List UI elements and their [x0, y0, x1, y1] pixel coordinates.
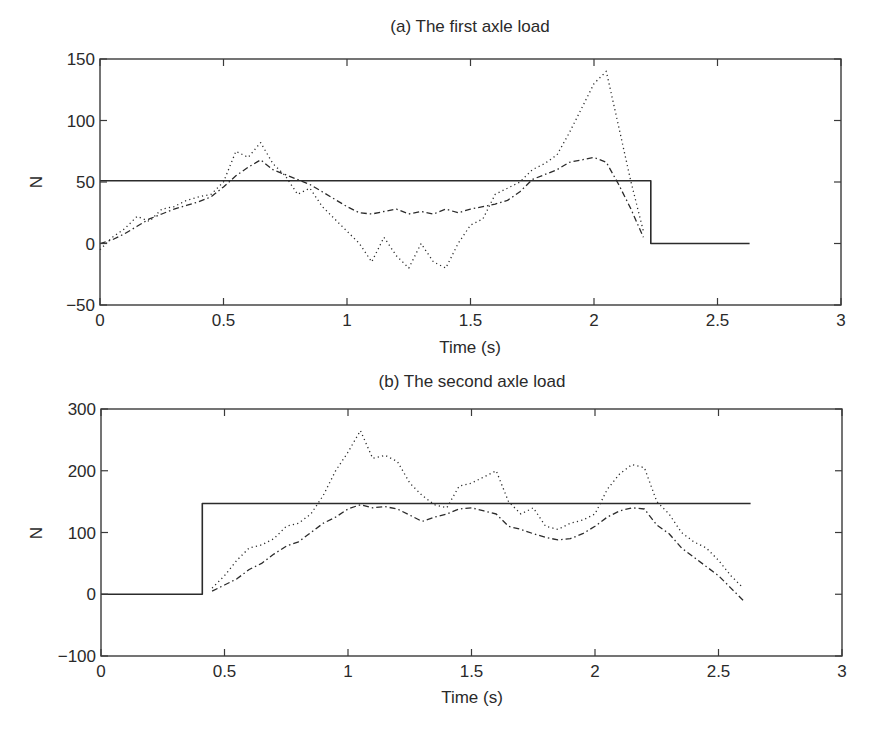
x-tick-label: 2 [590, 662, 599, 681]
x-tick-labels: 00.511.522.53 [96, 662, 846, 681]
y-axis-label: N [27, 527, 46, 539]
y-tick-label: 150 [67, 50, 95, 69]
x-tick-label: 0.5 [212, 311, 236, 330]
plot-area [100, 71, 750, 268]
series-dashdot [100, 157, 643, 243]
y-tick-label: −100 [58, 647, 96, 666]
series-dotted [212, 431, 743, 588]
x-tick-label: 1.5 [460, 662, 484, 681]
y-tick-label: 100 [67, 112, 95, 131]
x-tick-label: 1.5 [459, 311, 483, 330]
y-tick-label: 100 [68, 524, 96, 543]
x-tick-label: 2.5 [707, 662, 731, 681]
chart-title: (b) The second axle load [379, 372, 566, 391]
x-tick-label: 2 [589, 311, 598, 330]
y-tick-labels: −1000100200300 [58, 400, 96, 666]
y-tick-label: 0 [86, 235, 95, 254]
x-axis-label: Time (s) [441, 688, 503, 707]
figure: (a) The first axle load 00.511.522.53 −5… [0, 0, 871, 732]
y-tick-label: 200 [68, 462, 96, 481]
axes-frame [100, 59, 841, 305]
x-tick-label: 3 [836, 311, 845, 330]
y-tick-label: −50 [66, 296, 95, 315]
x-tick-label: 3 [837, 662, 846, 681]
x-tick-label: 1 [342, 311, 351, 330]
series-dashdot [212, 505, 743, 601]
y-tick-label: 300 [68, 400, 96, 419]
x-tick-label: 1 [343, 662, 352, 681]
axes-frame [101, 409, 842, 656]
x-axis-label: Time (s) [439, 338, 501, 357]
y-tick-label: 50 [76, 173, 95, 192]
x-tick-label: 0.5 [213, 662, 237, 681]
series-solid [100, 181, 750, 244]
plot-area [101, 431, 751, 601]
x-tick-label: 0 [96, 662, 105, 681]
chart-first-axle-load: (a) The first axle load 00.511.522.53 −5… [27, 17, 846, 357]
y-tick-label: 0 [87, 585, 96, 604]
y-axis-label: N [27, 176, 46, 188]
x-tick-label: 2.5 [706, 311, 730, 330]
series-dotted [100, 71, 643, 268]
tick-marks [100, 59, 841, 305]
chart-second-axle-load: (b) The second axle load 00.511.522.53 −… [27, 372, 847, 707]
chart-title: (a) The first axle load [390, 17, 549, 36]
x-tick-label: 0 [95, 311, 104, 330]
series-solid [101, 504, 751, 595]
x-tick-labels: 00.511.522.53 [95, 311, 845, 330]
y-tick-labels: −50050100150 [66, 50, 95, 315]
tick-marks [101, 409, 842, 656]
